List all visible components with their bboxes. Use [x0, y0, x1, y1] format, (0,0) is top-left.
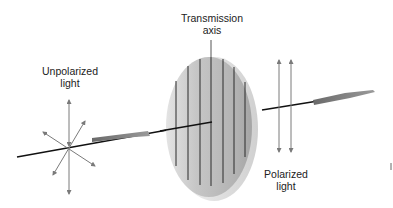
unpolarized-light-label: Unpolarized light	[38, 65, 102, 89]
transmitted-ray-arrow	[313, 90, 375, 105]
transmitted-beam	[262, 101, 318, 110]
transmission-axis-label-line2: axis	[180, 24, 244, 36]
polarized-light-label-line1: Polarized	[256, 168, 316, 180]
incident-ray-arrow	[92, 131, 150, 142]
unpolarized-light-label-line1: Unpolarized	[38, 65, 102, 77]
unpolarized-light-label-line2: light	[38, 77, 102, 89]
transmission-axis-label-line1: Transmission	[180, 12, 244, 24]
unpolarized-vectors	[43, 100, 95, 194]
polarized-light-label-line2: light	[256, 180, 316, 192]
polarized-light-label: Polarized light	[256, 168, 316, 192]
transmission-axis-label: Transmission axis	[180, 12, 244, 36]
polarizer-diagram: Transmission axis Unpolarized light Pola…	[0, 0, 393, 208]
